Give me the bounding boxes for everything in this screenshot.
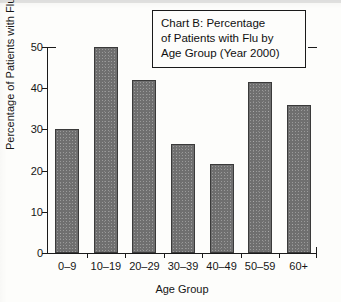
x-tick-label: 60+ (289, 260, 308, 272)
axis-frame-stub-top-left (47, 47, 56, 48)
x-tick-mark (125, 253, 126, 258)
bar (248, 82, 272, 253)
y-axis-title: Percentage of Patients with Flu (4, 0, 16, 150)
x-tick-label: 40–49 (206, 260, 237, 272)
y-tick-label: 20 (31, 165, 43, 176)
chart-title-line-2: of Patients with Flu by (161, 31, 298, 46)
x-tick-label: 50–59 (245, 260, 276, 272)
bar (287, 105, 311, 253)
plot-area: 01020304050 0–910–1920–2930–3940–4950–59… (47, 47, 317, 253)
bar (210, 164, 234, 253)
bar (132, 80, 156, 253)
bar (94, 47, 118, 253)
x-tick-label: 0–9 (58, 260, 76, 272)
x-tick-mark (279, 253, 280, 258)
x-tick-label: 30–39 (168, 260, 199, 272)
x-tick-label: 10–19 (91, 260, 122, 272)
chart-title-line-1: Chart B: Percentage (161, 16, 298, 31)
y-tick-label: 10 (31, 206, 43, 217)
y-tick-label: 40 (31, 83, 43, 94)
y-tick-label: 30 (31, 124, 43, 135)
scan-edge-artifact (0, 0, 341, 3)
x-tick-mark (316, 253, 317, 258)
axis-frame-stub-top-right (308, 47, 317, 48)
y-tick-label: 50 (31, 42, 43, 53)
y-tick-label: 0 (37, 248, 43, 259)
x-tick-mark (241, 253, 242, 258)
x-tick-mark (164, 253, 165, 258)
x-axis-title: Age Group (47, 283, 317, 295)
y-axis-line (47, 47, 48, 253)
bar (55, 129, 79, 253)
x-tick-label: 20–29 (129, 260, 160, 272)
chart-figure: Chart B: Percentage of Patients with Flu… (0, 0, 341, 302)
bar (171, 144, 195, 253)
x-tick-mark (87, 253, 88, 258)
x-tick-mark (202, 253, 203, 258)
